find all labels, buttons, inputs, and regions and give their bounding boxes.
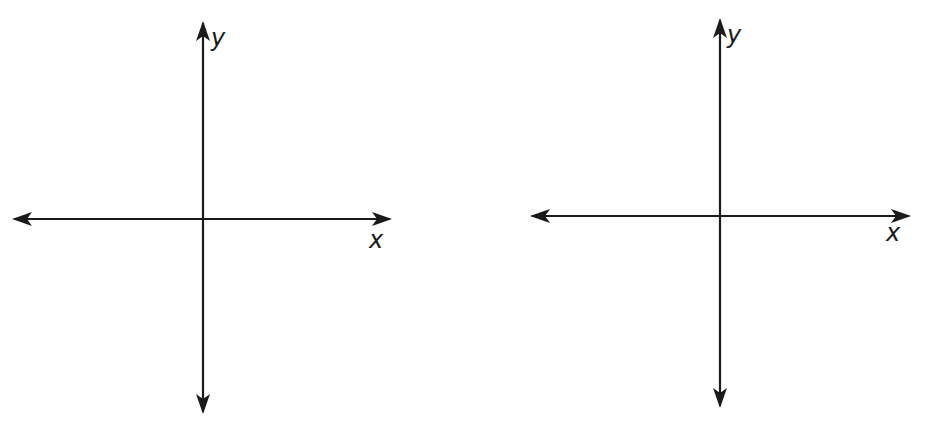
- right-coordinate-plane: x y: [532, 20, 909, 406]
- right-y-axis-label: y: [726, 21, 742, 49]
- left-coordinate-plane: x y: [14, 23, 390, 412]
- left-y-axis-label: y: [210, 24, 226, 52]
- right-x-axis-label: x: [885, 219, 901, 247]
- left-x-axis-label: x: [368, 226, 384, 254]
- figure-canvas: x y x y: [0, 0, 948, 446]
